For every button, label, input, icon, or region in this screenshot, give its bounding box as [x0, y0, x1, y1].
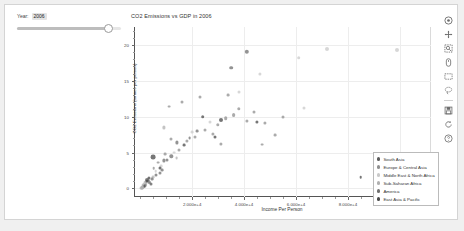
- scatter-point[interactable]: [154, 170, 157, 173]
- legend-marker-icon: [377, 157, 380, 160]
- scatter-point[interactable]: [274, 134, 277, 137]
- legend-item[interactable]: Sub-Saharan Africa: [377, 179, 435, 187]
- x-axis-minor-tick: [283, 197, 284, 199]
- scatter-point[interactable]: [227, 94, 230, 97]
- scatter-point[interactable]: [158, 172, 161, 175]
- scatter-point[interactable]: [162, 159, 165, 162]
- scatter-point[interactable]: [219, 142, 222, 145]
- scatter-point[interactable]: [150, 178, 153, 181]
- slider-label: Year: 2006: [17, 13, 121, 20]
- legend-item-label: South Asia: [383, 157, 404, 162]
- scatter-point[interactable]: [395, 48, 399, 52]
- scatter-point[interactable]: [173, 151, 176, 154]
- scatter-point[interactable]: [261, 143, 264, 146]
- box-select-tool-icon[interactable]: [443, 71, 454, 82]
- scatter-point[interactable]: [178, 148, 181, 151]
- scatter-point[interactable]: [183, 144, 186, 147]
- scatter-point[interactable]: [263, 122, 266, 125]
- scatter-point[interactable]: [140, 187, 143, 190]
- scatter-point[interactable]: [157, 161, 160, 164]
- scatter-point[interactable]: [188, 137, 191, 140]
- pan-tool-icon[interactable]: [443, 29, 454, 40]
- x-axis-tick: [348, 197, 349, 200]
- scatter-point[interactable]: [163, 153, 166, 156]
- year-slider-widget[interactable]: Year: 2006: [17, 13, 121, 39]
- scatter-point[interactable]: [209, 121, 212, 124]
- scatter-point[interactable]: [196, 130, 199, 133]
- scatter-point[interactable]: [253, 111, 256, 114]
- scatter-point[interactable]: [216, 123, 219, 126]
- scatter-point[interactable]: [360, 176, 363, 179]
- scatter-point[interactable]: [193, 136, 196, 139]
- legend-item[interactable]: Middle East & North Africa: [377, 171, 435, 179]
- slider-track-wrap[interactable]: [17, 24, 121, 33]
- help-tool-icon[interactable]: [443, 133, 454, 144]
- x-axis-minor-tick: [140, 197, 141, 199]
- scatter-point[interactable]: [162, 126, 165, 129]
- scatter-point[interactable]: [175, 157, 178, 160]
- box-zoom-tool-icon[interactable]: [443, 43, 454, 54]
- scatter-point[interactable]: [198, 95, 201, 98]
- scatter-point[interactable]: [151, 154, 156, 159]
- scatter-point[interactable]: [244, 50, 248, 54]
- scatter-point[interactable]: [302, 107, 305, 110]
- scatter-point[interactable]: [166, 158, 169, 161]
- legend-marker-icon: [377, 173, 380, 176]
- x-axis-minor-tick: [257, 197, 258, 199]
- legend-item-label: America: [383, 189, 399, 194]
- scatter-point[interactable]: [282, 116, 285, 119]
- gridline-vertical: [296, 27, 297, 197]
- gridline-horizontal: [135, 81, 431, 82]
- scatter-point[interactable]: [201, 115, 205, 119]
- scatter-point[interactable]: [229, 66, 233, 70]
- legend[interactable]: South AsiaEurope & Central AsiaMiddle Ea…: [373, 152, 439, 206]
- scatter-point[interactable]: [204, 128, 207, 131]
- legend-item-label: Sub-Saharan Africa: [383, 181, 421, 186]
- slider-value: 2006: [32, 13, 47, 20]
- scatter-point[interactable]: [325, 47, 329, 51]
- scatter-point[interactable]: [167, 105, 170, 108]
- scatter-point[interactable]: [219, 118, 223, 122]
- legend-item-label: Middle East & North Africa: [383, 173, 434, 178]
- legend-marker-icon: [377, 197, 380, 200]
- scatter-point[interactable]: [155, 174, 158, 177]
- scatter-point[interactable]: [297, 56, 301, 60]
- y-axis-tick: [132, 188, 135, 189]
- scatter-point[interactable]: [258, 72, 261, 75]
- scatter-point[interactable]: [146, 180, 149, 183]
- scatter-point[interactable]: [237, 91, 240, 94]
- scatter-point[interactable]: [245, 119, 248, 122]
- reset-tool-icon[interactable]: [443, 119, 454, 130]
- scatter-point[interactable]: [180, 101, 183, 104]
- scatter-point[interactable]: [214, 135, 217, 138]
- save-tool-icon[interactable]: [443, 105, 454, 116]
- legend-item[interactable]: South Asia: [377, 155, 435, 163]
- scatter-point[interactable]: [175, 141, 178, 144]
- bokeh-logo-icon: [443, 15, 454, 26]
- toolbar-divider: [444, 100, 453, 101]
- legend-item[interactable]: East Asia & Pacific: [377, 195, 435, 203]
- scatter-point[interactable]: [170, 137, 173, 140]
- y-axis-tick-label: 10: [124, 114, 129, 119]
- slider-label-prefix: Year:: [17, 13, 29, 20]
- bokeh-toolbar[interactable]: [441, 15, 455, 144]
- legend-item[interactable]: America: [377, 187, 435, 195]
- scatter-point[interactable]: [191, 131, 194, 134]
- wheel-zoom-tool-icon[interactable]: [443, 57, 454, 68]
- x-axis-tick: [296, 197, 297, 200]
- x-axis-minor-tick: [218, 197, 219, 199]
- scatter-point[interactable]: [237, 107, 240, 110]
- scatter-point[interactable]: [232, 113, 236, 117]
- scatter-point[interactable]: [143, 184, 146, 187]
- x-axis-label: Income Per Person: [134, 207, 430, 212]
- gridline-vertical: [348, 27, 349, 197]
- slider-handle[interactable]: [104, 24, 113, 33]
- lasso-select-tool-icon[interactable]: [443, 85, 454, 96]
- scatter-point[interactable]: [185, 139, 188, 142]
- scatter-point[interactable]: [170, 154, 173, 157]
- scatter-point[interactable]: [224, 116, 228, 120]
- legend-item[interactable]: Europe & Central Asia: [377, 163, 435, 171]
- scatter-point[interactable]: [159, 166, 162, 169]
- x-axis-minor-tick: [205, 197, 206, 199]
- scatter-point[interactable]: [255, 120, 258, 123]
